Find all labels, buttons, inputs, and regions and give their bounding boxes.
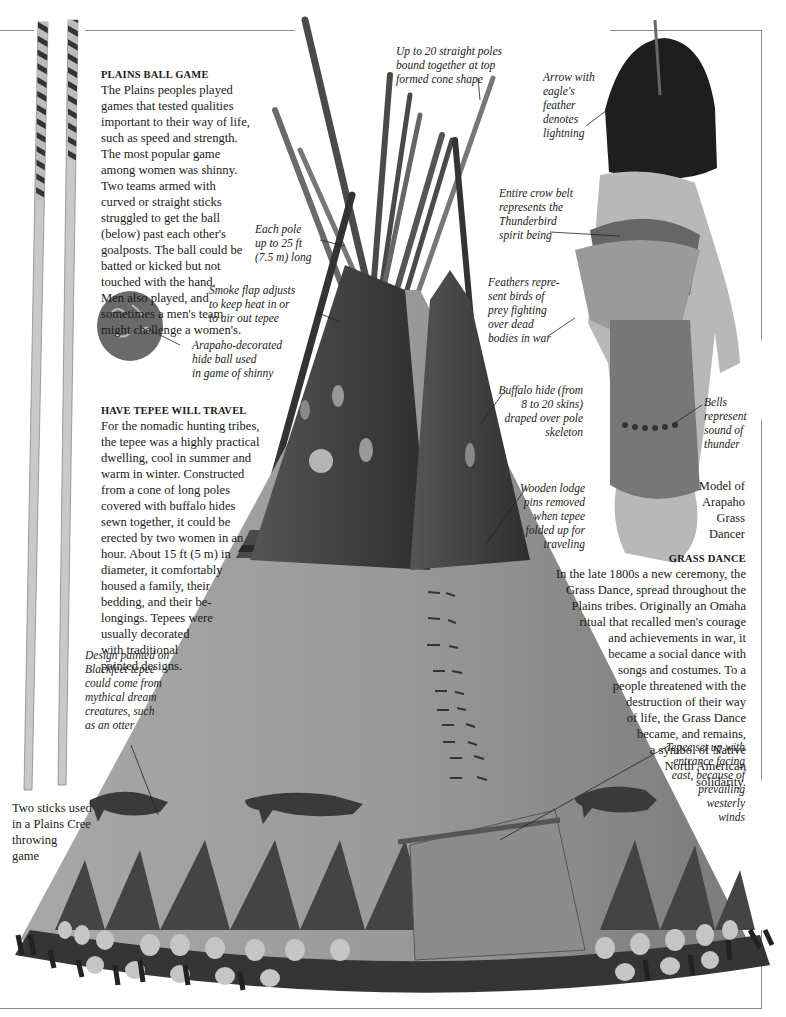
caption-line: spirit being: [499, 228, 573, 242]
caption-line: eagle's: [543, 84, 595, 98]
body-line: warm in winter. Constructed: [101, 466, 301, 482]
body-line: dwelling, cool in summer and: [101, 450, 301, 466]
caption-line: Two sticks used: [12, 800, 92, 816]
body-line: In the late 1800s a new ceremony, the: [540, 566, 746, 582]
caption-line: thunder: [704, 437, 747, 451]
body-line: sewn together, it could be: [101, 514, 301, 530]
caption-line: represents the: [499, 200, 573, 214]
caption-line: Smoke flap adjusts: [209, 283, 295, 297]
section-heading: GRASS DANCE: [540, 552, 746, 566]
section-body: For the nomadic hunting tribes, the tepe…: [101, 418, 301, 674]
caption-sticks: Two sticks used in a Plains Cree throwin…: [12, 800, 92, 864]
caption-bells: Bells represent sound of thunder: [704, 395, 747, 451]
caption-line: pins removed: [520, 495, 585, 509]
caption-line: in a Plains Cree: [12, 816, 92, 832]
body-line: usually decorated: [101, 626, 301, 642]
caption-hide-ball: Arapaho-decorated hide ball used in game…: [192, 338, 282, 380]
caption-line: Model of: [695, 478, 745, 494]
caption-line: traveling: [520, 537, 585, 551]
caption-line: when tepee: [520, 509, 585, 523]
caption-line: prey fighting: [488, 303, 560, 317]
body-line: games that tested qualities: [101, 98, 301, 114]
body-line: songs and costumes. To a: [540, 662, 746, 678]
body-line: of life, the Grass Dance: [540, 710, 746, 726]
body-line: among women was shinny.: [101, 162, 301, 178]
body-line: ritual that recalled men's courage: [540, 614, 746, 630]
body-line: For the nomadic hunting tribes,: [101, 418, 301, 434]
body-line: hour. About 15 ft (5 m) in: [101, 546, 301, 562]
caption-line: mythical dream: [85, 690, 169, 704]
caption-line: game: [12, 848, 92, 864]
body-line: people threatened with the: [540, 678, 746, 694]
caption-line: in game of shinny: [192, 366, 282, 380]
caption-entrance: Tepee set up with entrance facing east, …: [655, 740, 745, 824]
caption-smoke-flap: Smoke flap adjusts to keep heat in or to…: [209, 283, 295, 325]
caption-line: Blackfeet tepee: [85, 662, 169, 676]
caption-line: Entire crow belt: [499, 186, 573, 200]
body-line: curved or straight sticks: [101, 194, 301, 210]
caption-lodge-pins: Wooden lodge pins removed when tepee fol…: [520, 481, 585, 551]
caption-line: east, because of: [655, 768, 745, 782]
caption-line: sent birds of: [488, 289, 560, 303]
caption-line: bound together at top: [396, 58, 502, 72]
body-line: erected by two women in an: [101, 530, 301, 546]
body-line: and achievements in war, it: [540, 630, 746, 646]
caption-poles-bound: Up to 20 straight poles bound together a…: [396, 44, 502, 86]
throwing-sticks-icon: [24, 20, 78, 790]
caption-line: Up to 20 straight poles: [396, 44, 502, 58]
caption-arrow: Arrow with eagle's feather denotes light…: [543, 70, 595, 140]
body-line: bedding, and their be-: [101, 594, 301, 610]
caption-crow-belt: Entire crow belt represents the Thunderb…: [499, 186, 573, 242]
caption-line: bodies in war: [488, 331, 560, 345]
caption-line: Design painted on: [85, 648, 169, 662]
caption-line: to air out tepee: [209, 311, 295, 325]
body-line: housed a family, their: [101, 578, 301, 594]
caption-line: denotes: [543, 112, 595, 126]
caption-line: as an otter: [85, 718, 169, 732]
caption-line: hide ball used: [192, 352, 282, 366]
caption-line: Each pole: [255, 222, 312, 236]
caption-line: Arapaho: [695, 494, 745, 510]
caption-line: up to 25 ft: [255, 236, 312, 250]
caption-line: Arapaho-decorated: [192, 338, 282, 352]
caption-line: Bells: [704, 395, 747, 409]
caption-line: over dead: [488, 317, 560, 331]
caption-line: Feathers repre-: [488, 275, 560, 289]
body-line: The most popular game: [101, 146, 301, 162]
caption-blackfeet: Design painted on Blackfeet tepee could …: [85, 648, 169, 732]
caption-line: throwing: [12, 832, 92, 848]
section-heading: PLAINS BALL GAME: [101, 68, 301, 82]
body-line: became a social dance with: [540, 646, 746, 662]
body-line: Grass Dance, spread throughout the: [540, 582, 746, 598]
body-line: covered with buffalo hides: [101, 498, 301, 514]
caption-each-pole: Each pole up to 25 ft (7.5 m) long: [255, 222, 312, 264]
caption-line: Buffalo hide (from: [495, 383, 583, 397]
caption-line: draped over pole: [495, 411, 583, 425]
have-tepee-section: HAVE TEPEE WILL TRAVEL For the nomadic h…: [101, 404, 301, 674]
body-line: longings. Tepees were: [101, 610, 301, 626]
body-line: diameter, it comfortably: [101, 562, 301, 578]
caption-line: winds: [655, 810, 745, 824]
caption-line: lightning: [543, 126, 595, 140]
caption-line: could come from: [85, 676, 169, 690]
caption-line: prevailing: [655, 782, 745, 796]
body-line: from a cone of long poles: [101, 482, 301, 498]
caption-line: entrance facing: [655, 754, 745, 768]
caption-line: to keep heat in or: [209, 297, 295, 311]
body-line: important to their way of life,: [101, 114, 301, 130]
caption-line: Arrow with: [543, 70, 595, 84]
caption-line: skeleton: [495, 425, 583, 439]
caption-line: sound of: [704, 423, 747, 437]
caption-line: 8 to 20 skins): [495, 397, 583, 411]
body-line: Two teams armed with: [101, 178, 301, 194]
caption-model: Model of Arapaho Grass Dancer: [695, 478, 745, 542]
caption-line: feather: [543, 98, 595, 112]
caption-line: Wooden lodge: [520, 481, 585, 495]
caption-line: Tepee set up with: [655, 740, 745, 754]
caption-line: (7.5 m) long: [255, 250, 312, 264]
caption-line: formed cone shape: [396, 72, 502, 86]
caption-line: westerly: [655, 796, 745, 810]
caption-line: Dancer: [695, 526, 745, 542]
caption-line: represent: [704, 409, 747, 423]
caption-line: Grass: [695, 510, 745, 526]
